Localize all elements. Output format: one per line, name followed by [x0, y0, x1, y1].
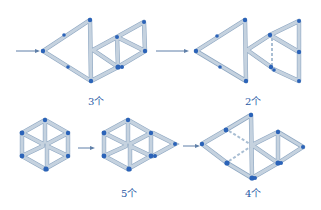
count-label-2: 2个	[245, 93, 260, 108]
matchsticks	[196, 20, 299, 81]
arrow-icon	[183, 144, 200, 148]
matchsticks	[202, 115, 303, 178]
matchsticks	[22, 120, 68, 169]
figure-top-left	[16, 18, 189, 83]
figure-shape-4	[200, 113, 305, 181]
arrow-icon	[156, 49, 189, 53]
arrow-icon	[78, 146, 95, 150]
count-label-5: 5个	[121, 185, 136, 200]
matchstick-diagram	[0, 0, 321, 210]
figure-top-right	[194, 18, 301, 83]
count-label-3: 3个	[88, 93, 103, 108]
figure-hexagon-5	[102, 118, 200, 172]
matchsticks	[43, 20, 145, 81]
matchsticks	[104, 120, 175, 169]
count-label-4: 4个	[245, 185, 260, 200]
arrow-icon	[16, 49, 40, 53]
figure-hexagon-start	[20, 118, 95, 172]
